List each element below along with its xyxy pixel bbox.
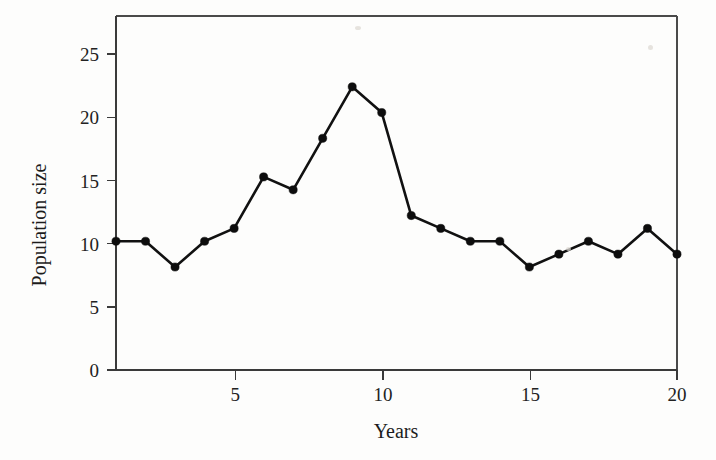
data-point	[200, 237, 208, 245]
data-point	[171, 263, 179, 271]
data-point	[378, 108, 386, 116]
scan-speck	[566, 247, 571, 251]
figure-container: 0 5 10 15 20 25 5 10 15 20 Years Populat…	[0, 0, 716, 460]
data-point	[407, 211, 415, 219]
x-axis-tick-labels: 5 10 15 20	[231, 384, 687, 405]
data-series-line	[116, 87, 677, 267]
x-tick-label-10: 10	[374, 384, 393, 405]
x-tick-label-15: 15	[521, 384, 540, 405]
data-point	[260, 173, 268, 181]
data-point	[112, 237, 120, 245]
data-point	[141, 237, 149, 245]
data-point	[584, 237, 592, 245]
scan-speck	[648, 45, 653, 50]
data-point	[289, 186, 297, 194]
plot-frame	[116, 16, 677, 370]
y-tick-label-25: 25	[80, 44, 99, 65]
y-axis-tick-labels: 0 5 10 15 20 25	[80, 44, 99, 381]
y-tick-label-10: 10	[80, 234, 99, 255]
data-point	[437, 224, 445, 232]
y-tick-label-15: 15	[80, 171, 99, 192]
data-point	[319, 134, 327, 142]
data-point	[466, 237, 474, 245]
data-point	[348, 83, 356, 91]
x-tick-label-20: 20	[668, 384, 687, 405]
data-series-markers	[112, 83, 681, 271]
y-tick-label-0: 0	[90, 360, 100, 381]
x-axis-title: Years	[374, 420, 419, 442]
data-point	[525, 263, 533, 271]
scan-speck	[355, 26, 361, 30]
line-chart: 0 5 10 15 20 25 5 10 15 20 Years Populat…	[0, 0, 716, 460]
data-point	[614, 250, 622, 258]
y-axis-ticks	[107, 54, 116, 370]
x-axis-ticks	[235, 370, 677, 380]
y-axis-title: Population size	[28, 163, 51, 286]
data-point	[230, 224, 238, 232]
data-point	[673, 250, 681, 258]
x-tick-label-5: 5	[231, 384, 241, 405]
y-tick-label-20: 20	[80, 107, 99, 128]
data-point	[643, 224, 651, 232]
y-tick-label-5: 5	[90, 297, 100, 318]
data-point	[496, 237, 504, 245]
data-point	[555, 250, 563, 258]
